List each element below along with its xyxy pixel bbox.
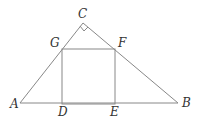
triangle-abc xyxy=(20,23,178,103)
square-defg xyxy=(62,49,115,104)
geometry-diagram: A B C D E F G xyxy=(0,0,200,121)
label-f: F xyxy=(118,37,126,49)
label-g: G xyxy=(50,37,60,49)
label-e: E xyxy=(110,106,119,118)
label-d: D xyxy=(58,106,68,118)
label-c: C xyxy=(78,8,87,20)
triangle-square-figure xyxy=(0,0,200,121)
label-a: A xyxy=(10,98,19,110)
label-b: B xyxy=(182,97,191,109)
